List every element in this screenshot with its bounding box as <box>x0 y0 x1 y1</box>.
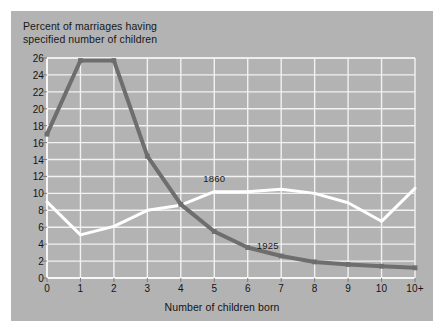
data-point-1925 <box>279 254 284 259</box>
y-tick-label: 6 <box>22 222 44 233</box>
y-tick-label: 10 <box>22 188 44 199</box>
data-point-1925 <box>145 154 150 159</box>
y-tick-label: 20 <box>22 103 44 114</box>
data-point-1925 <box>45 132 50 137</box>
x-axis-title: Number of children born <box>0 301 444 313</box>
y-tick-label: 24 <box>22 69 44 80</box>
chart-figure: Percent of marriages having specified nu… <box>0 0 444 332</box>
x-tick-label: 8 <box>312 283 318 294</box>
x-tick-label: 7 <box>278 283 284 294</box>
x-tick-label: 10+ <box>406 283 423 294</box>
y-tick-label: 22 <box>22 86 44 97</box>
data-point-1925 <box>78 58 83 63</box>
x-tick-label: 2 <box>111 283 117 294</box>
data-point-1925 <box>312 260 317 265</box>
x-axis-tick-labels: 01234567891010+ <box>0 283 444 299</box>
y-tick-label: 8 <box>22 205 44 216</box>
data-point-1925 <box>245 245 250 250</box>
data-point-1925 <box>178 202 183 207</box>
series-label-1860: 1860 <box>203 173 225 184</box>
y-tick-label: 18 <box>22 120 44 131</box>
data-point-1925 <box>112 58 117 63</box>
y-tick-label: 12 <box>22 171 44 182</box>
y-tick-label: 4 <box>22 239 44 250</box>
x-tick-label: 9 <box>345 283 351 294</box>
x-tick-label: 0 <box>44 283 50 294</box>
series-label-1925: 1925 <box>257 240 279 251</box>
data-point-1925 <box>346 262 351 267</box>
x-tick-label: 4 <box>178 283 184 294</box>
y-tick-label: 16 <box>22 137 44 148</box>
data-point-1925 <box>212 229 217 234</box>
y-tick-label: 2 <box>22 256 44 267</box>
y-tick-label: 14 <box>22 154 44 165</box>
y-tick-label: 0 <box>22 273 44 284</box>
x-tick-label: 3 <box>145 283 151 294</box>
data-point-1925 <box>379 264 384 269</box>
x-tick-label: 5 <box>211 283 217 294</box>
data-point-1925 <box>413 265 418 270</box>
x-tick-label: 10 <box>376 283 387 294</box>
y-tick-label: 26 <box>22 53 44 64</box>
x-tick-label: 6 <box>245 283 251 294</box>
x-tick-label: 1 <box>78 283 84 294</box>
